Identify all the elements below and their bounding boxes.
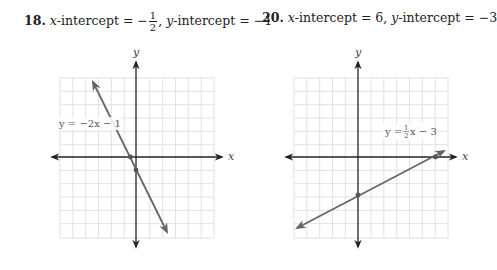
y-intercept-point (134, 168, 139, 173)
x-axis-label: x (228, 150, 235, 163)
svg-text:1: 1 (404, 124, 408, 132)
y-axis-label: y (132, 46, 140, 59)
grid-lines (60, 78, 214, 238)
grid-border (60, 78, 214, 238)
x-intercept-point (433, 155, 438, 160)
graph-18: y x y = −2x − 1 (52, 46, 235, 247)
equation-label: y = −2x − 1 (58, 118, 121, 129)
grid-lines (294, 78, 448, 238)
y-intercept-point (356, 193, 361, 198)
x-axis-label: x (462, 150, 469, 163)
svg-text:x − 3: x − 3 (410, 126, 437, 137)
svg-text:y =: y = (384, 126, 402, 137)
y-axis-label: y (354, 46, 362, 59)
graph-20: y x y = 1 2 x − 3 (286, 46, 469, 247)
x-intercept-point (128, 155, 133, 160)
svg-text:2: 2 (404, 132, 408, 140)
